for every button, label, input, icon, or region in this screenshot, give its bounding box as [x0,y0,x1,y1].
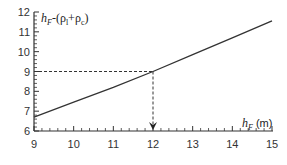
x-tick-label: 9 [31,138,37,150]
y-tick-label: 7 [24,105,30,117]
guides [34,72,157,131]
x-tick-label: 15 [266,138,278,150]
x-tick-label: 14 [226,138,238,150]
x-tick-label: 10 [68,138,80,150]
x-axis-label: hF (m) [242,116,272,132]
y-tick-label: 9 [24,66,30,78]
y-tick-label: 8 [24,85,30,97]
y-tick-label: 6 [24,125,30,137]
x-tick-label: 13 [187,138,199,150]
y-tick-label: 10 [18,46,30,58]
x-tick-label: 12 [147,138,159,150]
y-axis-label: hF-(ρl+ρc) [41,11,88,27]
y-tick-label: 12 [18,6,30,18]
x-tick-label: 11 [108,138,119,150]
y-tick-label: 11 [19,26,30,38]
chart: 91011121314156789101112 hF-(ρl+ρc) hF (m… [0,0,287,165]
ticks: 91011121314156789101112 [18,6,278,150]
